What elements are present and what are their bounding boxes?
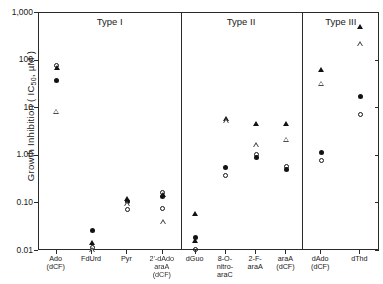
- data-point-open-triangle: [124, 201, 130, 206]
- y-tick-label-0: 1,000: [3, 8, 33, 17]
- data-point-filled-circle: [319, 150, 324, 155]
- x-axis-label-2-1: dThd: [331, 255, 383, 263]
- y-tick-label-2: 10: [3, 103, 33, 112]
- panel-title-0: Type I: [39, 16, 181, 27]
- data-point-filled-circle: [223, 165, 228, 170]
- panel-divider-1: [181, 13, 182, 249]
- y-tick-label-3: 1.00: [3, 150, 33, 159]
- x-axis-label-line: araC: [197, 271, 253, 279]
- figure-root: Growth Inhibition ( IC50, µM ) 1,0001001…: [0, 0, 383, 284]
- data-point-open-circle: [223, 173, 228, 178]
- y-tick-mark-right-1: [375, 60, 379, 61]
- x-axis-labels: Ado(dCF)FdUrdPyr2'-dAdoaraA(dCF)dGuo8-O-…: [38, 252, 379, 284]
- x-tick-mark-1-1: [225, 250, 226, 254]
- y-tick-label-4: 0.10: [3, 198, 33, 207]
- y-axis-tick-labels: 1,000100101.000.100.01: [0, 0, 33, 284]
- data-point-open-triangle: [357, 41, 363, 46]
- x-tick-mark-1-2: [255, 250, 256, 254]
- y-tick-label-1: 100: [3, 55, 33, 64]
- y-tick-mark-2: [34, 107, 38, 108]
- data-point-filled-triangle: [283, 121, 289, 126]
- y-tick-mark-right-2: [375, 107, 379, 108]
- data-point-open-triangle: [253, 142, 259, 147]
- x-tick-mark-1-3: [285, 250, 286, 254]
- data-point-filled-circle: [358, 94, 363, 99]
- x-axis-label-line: (dCF): [292, 263, 348, 271]
- data-point-open-triangle: [53, 109, 59, 114]
- panel-title-1: Type II: [181, 16, 302, 27]
- y-tick-label-5: 0.01: [3, 246, 33, 255]
- data-point-filled-circle: [90, 228, 95, 233]
- y-tick-mark-right-4: [375, 202, 379, 203]
- data-point-open-circle: [160, 206, 165, 211]
- y-tick-mark-right-5: [375, 250, 379, 251]
- x-tick-mark-0-0: [56, 250, 57, 254]
- data-point-open-triangle: [318, 81, 324, 86]
- data-point-open-triangle: [283, 137, 289, 142]
- x-tick-mark-2-0: [320, 250, 321, 254]
- data-point-filled-triangle: [253, 121, 259, 126]
- x-tick-mark-0-3: [162, 250, 163, 254]
- data-point-open-circle: [125, 207, 130, 212]
- y-tick-mark-1: [34, 60, 38, 61]
- data-point-filled-circle: [160, 194, 165, 199]
- data-point-filled-triangle: [54, 65, 60, 70]
- data-point-open-triangle: [160, 219, 166, 224]
- x-axis-label-line: (dCF): [28, 263, 84, 271]
- y-tick-mark-4: [34, 202, 38, 203]
- y-tick-mark-5: [34, 250, 38, 251]
- x-tick-mark-0-1: [91, 250, 92, 254]
- data-point-filled-circle: [54, 78, 59, 83]
- y-tick-mark-3: [34, 155, 38, 156]
- data-point-open-circle: [319, 158, 324, 163]
- data-point-filled-triangle: [192, 211, 198, 216]
- data-point-filled-triangle: [318, 67, 324, 72]
- panel-divider-2: [302, 13, 303, 249]
- x-tick-mark-2-1: [359, 250, 360, 254]
- y-tick-mark-right-3: [375, 155, 379, 156]
- data-point-filled-triangle: [357, 24, 363, 29]
- y-tick-mark-right-0: [375, 12, 379, 13]
- data-point-filled-circle: [254, 155, 259, 160]
- panel-title-2: Type III: [302, 16, 380, 27]
- plot-area: Type IType IIType III: [38, 12, 379, 250]
- x-tick-mark-0-2: [126, 250, 127, 254]
- data-point-open-triangle: [223, 118, 229, 123]
- y-tick-mark-0: [34, 12, 38, 13]
- x-tick-mark-1-0: [195, 250, 196, 254]
- x-axis-label-line: dThd: [331, 255, 383, 263]
- data-point-open-circle: [358, 112, 363, 117]
- data-point-filled-triangle: [192, 238, 198, 243]
- x-axis-label-line: (dCF): [134, 271, 190, 279]
- data-point-filled-circle: [284, 167, 289, 172]
